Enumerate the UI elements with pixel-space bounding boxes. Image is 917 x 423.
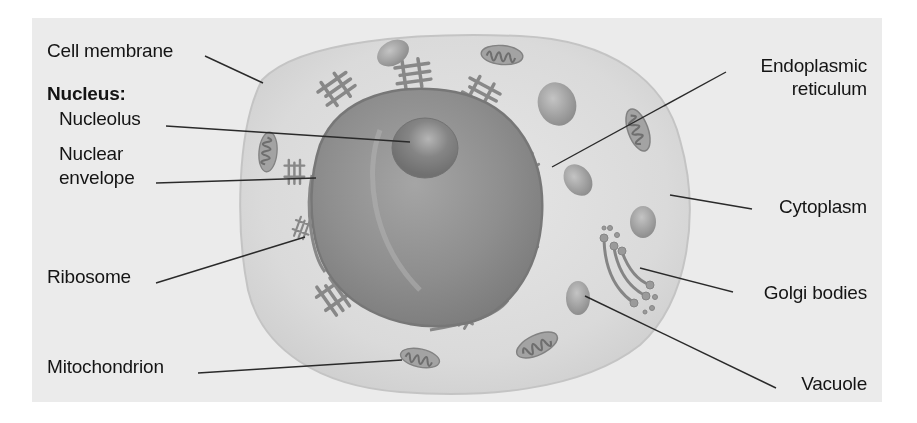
nucleolus xyxy=(392,118,458,178)
label-ribosome: Ribosome xyxy=(47,266,131,288)
label-golgi-bodies: Golgi bodies xyxy=(764,282,867,304)
label-endoplasmic-reticulum-line2: reticulum xyxy=(792,78,867,100)
nucleus xyxy=(311,89,542,326)
label-nucleus-heading: Nucleus: xyxy=(47,83,126,105)
label-nuclear-envelope-line2: envelope xyxy=(59,167,135,189)
label-nucleolus: Nucleolus xyxy=(59,108,141,130)
label-endoplasmic-reticulum-line1: Endoplasmic xyxy=(760,55,867,77)
label-mitochondrion: Mitochondrion xyxy=(47,356,164,378)
label-cytoplasm: Cytoplasm xyxy=(779,196,867,218)
label-vacuole: Vacuole xyxy=(801,373,867,395)
label-nuclear-envelope-line1: Nuclear xyxy=(59,143,123,165)
label-cell-membrane: Cell membrane xyxy=(47,40,173,62)
